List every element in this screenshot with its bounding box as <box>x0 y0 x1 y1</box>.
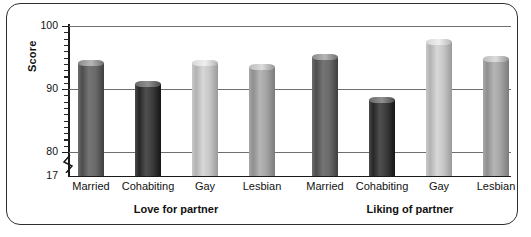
bar-body <box>369 100 395 176</box>
y-axis-minor-tick <box>64 70 69 71</box>
x-axis-category-label: Lesbian <box>460 180 531 192</box>
y-axis-minor-tick <box>64 39 69 40</box>
bar-gay-love <box>192 60 218 176</box>
y-axis-minor-tick <box>64 146 69 147</box>
bar-body <box>135 84 161 176</box>
group-label: Love for partner <box>53 203 299 215</box>
y-axis-minor-tick <box>64 83 69 84</box>
bar-cap <box>426 39 452 45</box>
y-axis-tick-label: 80 <box>30 145 58 157</box>
bar-cap <box>192 60 218 66</box>
bar-lesbian-liking <box>483 56 509 176</box>
y-axis-minor-tick <box>64 121 69 122</box>
gridline <box>69 26 511 27</box>
y-axis-tick <box>62 26 69 27</box>
y-axis-title: Score <box>26 40 38 72</box>
bar-cap <box>312 54 338 60</box>
y-axis-tick-label: 100 <box>30 19 58 31</box>
bar-body <box>312 57 338 176</box>
y-axis-minor-tick <box>64 139 69 140</box>
y-axis-minor-tick <box>64 76 69 77</box>
y-axis-tick-label: 17 <box>30 169 58 181</box>
y-axis-minor-tick <box>64 114 69 115</box>
y-axis-minor-tick <box>64 58 69 59</box>
bar-married-love <box>78 60 104 176</box>
y-axis-minor-tick <box>64 89 69 90</box>
y-axis-minor-tick <box>64 45 69 46</box>
y-axis-minor-tick <box>64 133 69 134</box>
y-axis-minor-tick <box>64 102 69 103</box>
bar-cap <box>78 60 104 66</box>
y-axis-tick <box>62 152 69 153</box>
bar-cohabiting-love <box>135 81 161 176</box>
bar-cap <box>369 97 395 103</box>
group-label: Liking of partner <box>287 203 531 215</box>
y-axis-minor-tick <box>64 95 69 96</box>
x-axis-category-label: Lesbian <box>226 180 298 192</box>
y-axis-minor-tick <box>64 127 69 128</box>
bar-body <box>249 67 275 176</box>
bar-body <box>426 42 452 176</box>
bar-gay-liking <box>426 39 452 176</box>
bar-cap <box>135 81 161 87</box>
axis-break-icon <box>60 155 76 173</box>
y-axis-minor-tick <box>64 64 69 65</box>
bar-married-liking <box>312 54 338 176</box>
bar-chart: Score 100908017 MarriedCohabitingGayLesb… <box>0 0 531 237</box>
bar-cap <box>483 56 509 62</box>
bar-cap <box>249 64 275 70</box>
bar-body <box>483 59 509 176</box>
y-axis-tick-label: 90 <box>30 82 58 94</box>
y-axis-minor-tick <box>64 32 69 33</box>
bar-cohabiting-liking <box>369 97 395 176</box>
x-axis-line <box>68 176 511 177</box>
y-axis-minor-tick <box>64 108 69 109</box>
bar-body <box>78 63 104 176</box>
bar-body <box>192 63 218 176</box>
bar-lesbian-love <box>249 64 275 176</box>
y-axis-minor-tick <box>64 51 69 52</box>
